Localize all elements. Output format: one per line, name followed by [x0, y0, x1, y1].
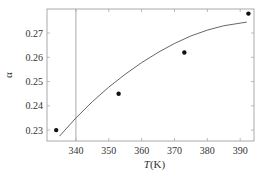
y-tick-label: 0.25 [26, 76, 44, 87]
x-tick-label: 350 [101, 145, 116, 156]
y-tick-label: 0.26 [26, 52, 44, 63]
data-point [116, 91, 120, 95]
x-tick-label: 380 [200, 145, 215, 156]
x-axis-label-unit: (K) [150, 158, 166, 171]
y-axis-label: α [2, 72, 14, 78]
chart: 340350360370380390 0.230.240.250.260.27 … [0, 0, 267, 177]
data-point [246, 11, 250, 15]
x-tick-label: 360 [134, 145, 149, 156]
data-point [182, 50, 186, 54]
y-tick-label: 0.23 [26, 125, 44, 136]
x-axis-label: T(K) [144, 158, 166, 171]
data-point [54, 128, 58, 132]
y-tick-label: 0.24 [26, 100, 44, 111]
x-tick-label: 390 [233, 145, 248, 156]
plot-frame [47, 9, 254, 141]
x-tick-label: 340 [68, 145, 83, 156]
fit-curve [59, 22, 246, 136]
x-tick-label: 370 [167, 145, 182, 156]
y-tick-label: 0.27 [26, 28, 44, 39]
